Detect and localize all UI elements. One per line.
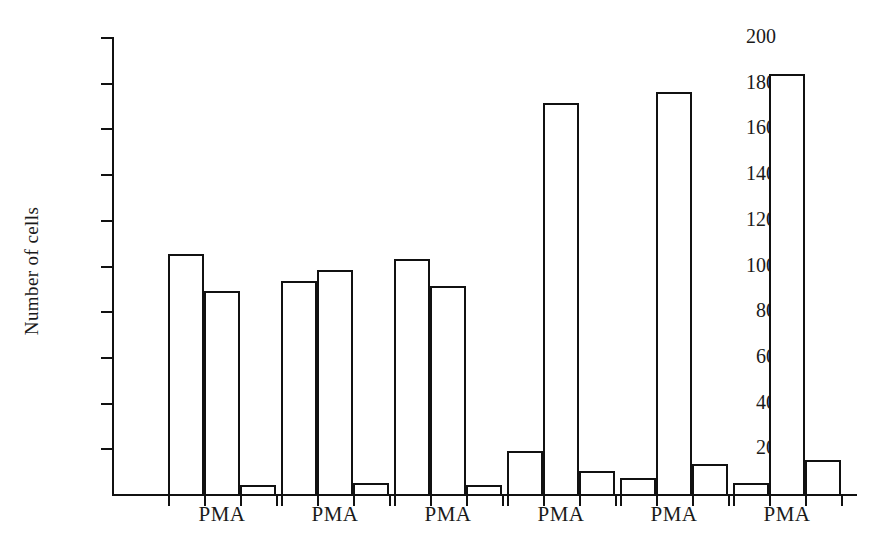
bar-chart-figure: Number of cells 204060801001201401601802…	[0, 0, 881, 545]
bar	[353, 483, 389, 496]
bar	[579, 471, 615, 496]
y-axis-tick	[101, 83, 112, 85]
bar	[733, 483, 769, 496]
bar	[281, 281, 317, 496]
bar	[204, 291, 240, 496]
y-axis-tick	[101, 174, 112, 176]
scan-edge-artifact	[0, 0, 881, 6]
y-axis-tick	[101, 128, 112, 130]
x-axis-group-label: PMA	[275, 502, 395, 526]
y-axis-tick	[101, 403, 112, 405]
y-axis-tick	[101, 357, 112, 359]
bar	[507, 451, 543, 496]
bar	[769, 74, 805, 496]
bar	[430, 286, 466, 496]
x-axis-group-label: PMA	[727, 502, 847, 526]
bar	[466, 485, 502, 496]
y-axis-spine	[112, 37, 114, 495]
x-axis-group-label: PMA	[388, 502, 508, 526]
bar	[240, 485, 276, 496]
x-axis-group-label: PMA	[501, 502, 621, 526]
bar	[543, 103, 579, 496]
y-axis-tick	[101, 448, 112, 450]
y-axis-tick	[101, 37, 112, 39]
y-axis-tick	[101, 266, 112, 268]
x-axis-group-label: PMA	[614, 502, 734, 526]
bar	[620, 478, 656, 496]
bar	[692, 464, 728, 496]
y-axis-title: Number of cells	[21, 171, 43, 371]
x-axis-group-label: PMA	[162, 502, 282, 526]
y-axis-tick	[101, 311, 112, 313]
y-axis-tick	[101, 220, 112, 222]
bar	[805, 460, 841, 496]
bar	[394, 259, 430, 496]
plot-area	[112, 37, 857, 494]
bar	[317, 270, 353, 496]
bar	[168, 254, 204, 496]
bar	[656, 92, 692, 496]
